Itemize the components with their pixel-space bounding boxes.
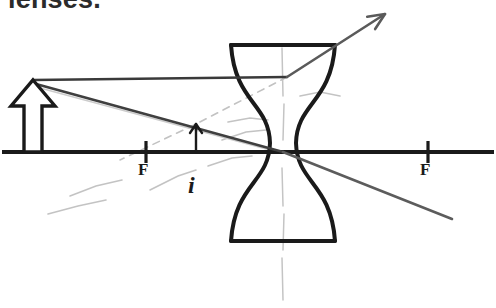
lens-axis-dash-1 [283, 104, 284, 140]
lens-dashed-axis-group [282, 48, 284, 300]
focal-point-label-left: F [138, 160, 148, 180]
incident-parallel-ray [33, 77, 287, 80]
lens-right-surface [296, 45, 335, 241]
eraser-smudge-near-lens [208, 156, 252, 166]
lens-axis-dash-3 [283, 214, 284, 250]
lens-axis-dash-4 [282, 258, 283, 300]
diagram-canvas [0, 0, 496, 308]
image-arrow-label: i [188, 172, 195, 199]
image-arrow-group [190, 124, 202, 152]
refracted-diverging-ray-arrowhead [367, 14, 385, 29]
optics-diagram-page: lenses. F F i [0, 0, 496, 308]
focal-point-label-right: F [420, 160, 430, 180]
lens-axis-dash-2 [282, 168, 283, 206]
eraser-smudge-left [70, 180, 122, 196]
faint-construction-ray [40, 88, 270, 150]
lens-axis-dash-0 [282, 48, 283, 96]
eraser-smudge-lower-left [48, 200, 106, 214]
